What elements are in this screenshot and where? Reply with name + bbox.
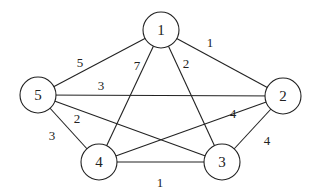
edge-weight-label: 7 bbox=[134, 58, 141, 73]
edge-5-3 bbox=[38, 95, 222, 162]
node-5: 5 bbox=[20, 77, 56, 113]
edges-layer bbox=[38, 30, 283, 162]
edge-4-2 bbox=[99, 96, 283, 162]
node-label: 1 bbox=[157, 22, 165, 38]
edge-weight-label: 2 bbox=[74, 111, 81, 126]
edge-weight-label: 3 bbox=[98, 78, 105, 93]
edge-weight-label: 1 bbox=[157, 175, 164, 190]
node-1: 1 bbox=[143, 12, 179, 48]
edge-weight-label: 4 bbox=[230, 106, 237, 121]
edge-weight-label: 2 bbox=[183, 56, 190, 71]
edge-weight-label: 5 bbox=[77, 55, 84, 70]
node-label: 5 bbox=[34, 87, 42, 103]
edge-1-2 bbox=[161, 30, 283, 96]
edge-weight-label: 4 bbox=[264, 133, 271, 148]
node-label: 4 bbox=[95, 154, 103, 170]
node-label: 2 bbox=[279, 88, 287, 104]
edge-weight-label: 3 bbox=[49, 128, 56, 143]
edge-5-2 bbox=[38, 95, 283, 96]
node-3: 3 bbox=[204, 144, 240, 180]
node-2: 2 bbox=[265, 78, 301, 114]
node-label: 3 bbox=[218, 154, 226, 170]
weighted-graph-diagram: 1275323441 12345 bbox=[0, 0, 318, 195]
edge-weight-label: 1 bbox=[207, 35, 214, 50]
node-4: 4 bbox=[81, 144, 117, 180]
